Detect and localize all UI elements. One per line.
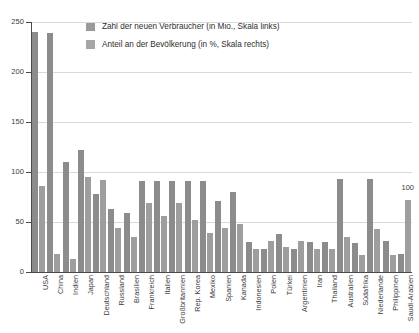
bar-share <box>253 249 259 272</box>
bar-group <box>322 22 337 272</box>
x-axis-label: Kanada <box>239 275 248 300</box>
bar-group <box>78 22 93 272</box>
bar-consumers <box>154 181 160 272</box>
bar-consumers <box>367 179 373 272</box>
bar-share <box>405 200 411 272</box>
x-axis-label: Deutschland <box>102 275 111 316</box>
bar-chart: Zahl der neuen Verbraucher (in Mio., Ska… <box>0 0 419 333</box>
bar-share <box>314 249 320 272</box>
bar-group <box>108 22 123 272</box>
y-tick-label-text: 100 <box>2 167 24 176</box>
x-axis-line <box>26 272 412 273</box>
bar-consumers <box>63 162 69 272</box>
bar-group <box>337 22 352 272</box>
y-tick-label: 100 <box>0 167 24 177</box>
y-tick-label-text: 0 <box>2 267 24 276</box>
bar-share <box>146 203 152 272</box>
bar-group <box>367 22 382 272</box>
bar-consumers <box>383 241 389 272</box>
bar-group <box>307 22 322 272</box>
bar-consumers <box>230 192 236 272</box>
bar-group <box>185 22 200 272</box>
bar-share <box>54 254 60 272</box>
y-tick-label-text: 50 <box>2 217 24 226</box>
bar-group <box>383 22 398 272</box>
x-axis-label: Spanien <box>224 275 233 302</box>
bar-consumers <box>261 249 267 272</box>
bar-group <box>63 22 78 272</box>
y-tick-label-text: 250 <box>2 17 24 26</box>
bar-group <box>246 22 261 272</box>
bar-share <box>344 237 350 272</box>
y-tick-label: 0 <box>0 267 24 277</box>
bar-group <box>139 22 154 272</box>
x-axis-label: Philippinen <box>391 275 400 311</box>
bar-share <box>176 203 182 272</box>
bar-share <box>70 259 76 272</box>
bar-group <box>261 22 276 272</box>
bar-share <box>192 220 198 272</box>
bar-consumers <box>93 194 99 272</box>
bar-consumers <box>215 201 221 272</box>
x-axis-label: USA <box>41 275 50 290</box>
bar-consumers <box>337 179 343 272</box>
bar-share <box>283 247 289 272</box>
x-axis-label: Frankreich <box>147 275 156 309</box>
x-axis-label: Australien <box>346 275 355 307</box>
bar-group <box>398 22 413 272</box>
x-axis-label: Japan <box>86 275 95 295</box>
bar-consumers <box>139 181 145 272</box>
bar-group <box>47 22 62 272</box>
bar-share <box>237 224 243 272</box>
bar-group <box>230 22 245 272</box>
bar-group <box>32 22 47 272</box>
x-axis-label: Thailand <box>330 275 339 303</box>
bar-share <box>390 255 396 272</box>
bar-consumers <box>47 33 53 272</box>
right-axis-annotation: 100 <box>401 183 414 192</box>
bar-group <box>291 22 306 272</box>
bar-consumers <box>276 234 282 272</box>
x-axis-label: Polen <box>269 275 278 294</box>
bar-consumers <box>398 254 404 272</box>
y-tick-label: 200 <box>0 67 24 77</box>
x-axis-label: Iran <box>315 275 324 288</box>
bar-consumers <box>307 242 313 272</box>
x-axis-label: Russland <box>117 275 126 305</box>
bar-consumers <box>200 181 206 272</box>
bar-group <box>154 22 169 272</box>
bar-consumers <box>291 249 297 272</box>
bar-group <box>352 22 367 272</box>
x-axis-label: Großbritannien <box>178 275 187 324</box>
plot-area <box>31 22 412 272</box>
bar-share <box>115 228 121 272</box>
y-tick-label-text: 150 <box>2 117 24 126</box>
bar-consumers <box>352 243 358 272</box>
x-axis-label: Italien <box>163 275 172 295</box>
bar-share <box>161 216 167 272</box>
bar-consumers <box>185 181 191 272</box>
x-axis-label: Brasilien <box>132 275 141 303</box>
bar-group <box>93 22 108 272</box>
bar-group <box>124 22 139 272</box>
x-axis-label: Südafrika <box>361 275 370 306</box>
bar-consumers <box>32 32 38 272</box>
bar-share <box>329 249 335 272</box>
x-axis-label: Mexiko <box>208 275 217 298</box>
bar-group <box>200 22 215 272</box>
bar-share <box>222 228 228 272</box>
bar-share <box>85 177 91 272</box>
y-tick-label: 50 <box>0 217 24 227</box>
bar-consumers <box>246 242 252 272</box>
x-axis-label: Saudi-Arabien <box>406 275 415 321</box>
bar-consumers <box>322 242 328 272</box>
bar-share <box>298 241 304 272</box>
bar-share <box>359 255 365 272</box>
bar-share <box>268 241 274 272</box>
bar-share <box>131 237 137 272</box>
x-axis-label: Türkei <box>285 275 294 295</box>
x-axis-label: Rep. Korea <box>193 275 202 312</box>
bar-consumers <box>78 150 84 272</box>
bar-share <box>39 186 45 272</box>
bar-consumers <box>124 213 130 272</box>
